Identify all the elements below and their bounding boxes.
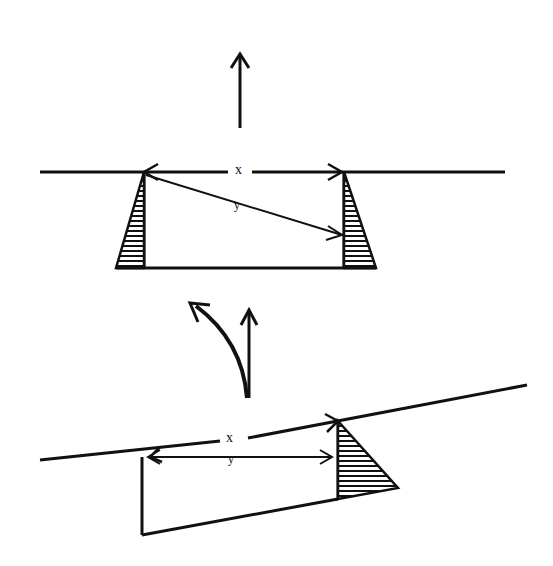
bottom-surface-line bbox=[40, 385, 527, 462]
top-label-y: y bbox=[234, 198, 240, 213]
top-label-x: x bbox=[235, 162, 242, 178]
top-diagonal-arrow bbox=[146, 175, 342, 240]
diagram-canvas: x y x y bbox=[0, 0, 553, 566]
upward-arrow-icon bbox=[231, 54, 249, 128]
bottom-label-x: x bbox=[226, 430, 233, 446]
diagram-svg bbox=[0, 0, 553, 566]
top-surface-line bbox=[40, 164, 505, 180]
bottom-horizontal-arrow bbox=[148, 450, 332, 464]
rotation-arrows-icon bbox=[190, 303, 257, 398]
top-block bbox=[116, 172, 376, 268]
bottom-label-y: y bbox=[228, 452, 234, 467]
bottom-block bbox=[142, 421, 398, 535]
